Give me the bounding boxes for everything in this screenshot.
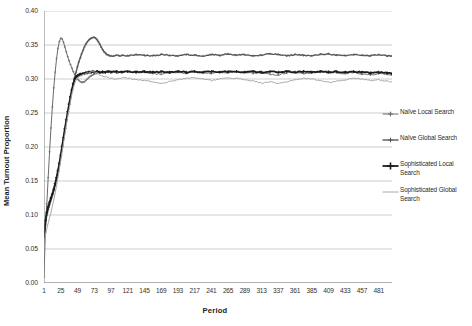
legend-item[interactable]: Sophisticated Global Search — [382, 186, 472, 205]
y-tick-label: 0.15 — [12, 177, 38, 184]
series-markers — [44, 70, 392, 238]
legend-marker-icon — [382, 161, 399, 171]
legend-item-label: Naïve Global Search — [399, 134, 457, 143]
legend-item[interactable]: Sophisticated Local Search — [382, 160, 472, 179]
legend-marker-icon — [382, 187, 399, 197]
legend-item[interactable]: Naïve Local Search — [382, 108, 472, 127]
legend-marker-icon — [382, 109, 399, 119]
y-tick-label: 0.25 — [12, 109, 38, 116]
chart-legend: Naïve Local SearchNaïve Global SearchSop… — [382, 108, 472, 212]
y-tick-label: 0.05 — [12, 245, 38, 252]
x-axis-title: Period — [150, 306, 280, 315]
gridlines — [44, 11, 392, 283]
legend-marker-icon — [382, 135, 399, 145]
legend-item-label: Sophisticated Global Search — [399, 186, 472, 203]
series-line — [44, 37, 392, 241]
legend-item-label: Sophisticated Local Search — [399, 160, 472, 177]
series-line — [44, 71, 392, 244]
series-line — [44, 71, 392, 237]
series-layer — [44, 36, 392, 278]
chart-container: Mean Turnout Proportion 0.400.350.300.25… — [0, 0, 472, 326]
y-tick-label: 0.40 — [12, 7, 38, 14]
legend-item-label: Naïve Local Search — [399, 108, 454, 117]
y-tick-label: 0.30 — [12, 75, 38, 82]
series-markers — [44, 36, 392, 242]
y-tick-label: 0.20 — [12, 143, 38, 150]
x-tick-label: 481 — [366, 287, 392, 294]
series-line — [44, 38, 392, 276]
y-tick-label: 0.00 — [12, 279, 38, 286]
y-tick-label: 0.10 — [12, 211, 38, 218]
plot-area — [44, 11, 392, 283]
plot-svg — [44, 11, 392, 283]
legend-item[interactable]: Naïve Global Search — [382, 134, 472, 153]
y-tick-label: 0.35 — [12, 41, 38, 48]
